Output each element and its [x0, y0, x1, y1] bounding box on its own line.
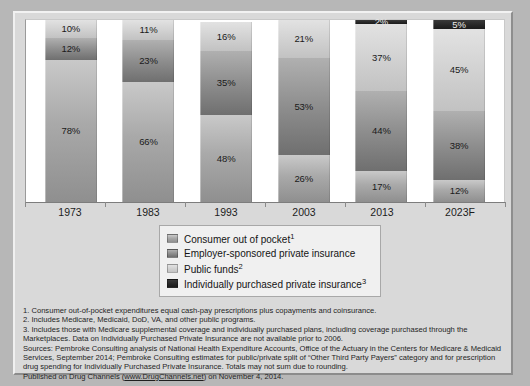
chart-panel: 10%12%78%11%23%66%16%35%48%21%53%26%2%37…	[13, 11, 513, 375]
segment-value-label: 12%	[61, 44, 80, 54]
bar-segment: 35%	[200, 51, 252, 115]
footnote-1: 1. Consumer out-of-pocket expenditures e…	[23, 306, 505, 315]
bar-1973: 10%12%78%	[45, 20, 97, 202]
sources-line-3: drug spending for Individually Purchased…	[23, 362, 505, 371]
bar-2003: 21%53%26%	[278, 20, 330, 202]
segment-value-label: 10%	[61, 24, 80, 34]
bar-segment: 5%	[433, 20, 485, 29]
bar-segment: 12%	[433, 180, 485, 202]
segment-value-label: 26%	[294, 174, 313, 184]
x-axis-labels: 197319831993200320132023F	[25, 206, 505, 222]
x-axis-label-1983: 1983	[122, 206, 174, 222]
legend-swatch-icon	[167, 264, 178, 273]
bar-1993: 16%35%48%	[200, 20, 252, 202]
legend-item-3[interactable]: Individually purchased private insurance…	[167, 276, 373, 291]
legend-swatch-icon	[167, 249, 178, 258]
segment-value-label: 37%	[372, 53, 391, 63]
legend-footnote-marker: 3	[362, 277, 366, 286]
segment-value-label: 17%	[372, 182, 391, 192]
segment-value-label: 48%	[217, 154, 236, 164]
x-axis-label-1993: 1993	[200, 206, 252, 222]
sources-line-2: Services, September 2014; Pembroke Consu…	[23, 353, 505, 362]
footnote-3-line-2: Marketplaces. Data on Individually Purch…	[23, 334, 505, 343]
legend-label: Public funds2	[184, 262, 243, 275]
legend-footnote-marker: 2	[238, 262, 242, 271]
plot-area: 10%12%78%11%23%66%16%35%48%21%53%26%2%37…	[25, 19, 505, 202]
bar-segment: 11%	[122, 20, 174, 40]
footnotes: 1. Consumer out-of-pocket expenditures e…	[23, 306, 505, 381]
bar-segment: 23%	[122, 40, 174, 82]
drug-channels-link[interactable]: www.DrugChannels.net	[124, 372, 203, 381]
footnote-3-line-1: 3. Includes those with Medicare suppleme…	[23, 325, 505, 334]
bar-segment: 21%	[278, 20, 330, 58]
segment-value-label: 23%	[139, 56, 158, 66]
legend-label: Consumer out of pocket1	[184, 232, 294, 245]
bar-segment: 45%	[433, 29, 485, 111]
chart-legend: Consumer out of pocket1Employer-sponsore…	[159, 225, 381, 297]
segment-value-label: 21%	[294, 34, 313, 44]
bar-segment: 10%	[45, 20, 97, 38]
x-axis-label-2023F: 2023F	[434, 206, 486, 222]
segment-value-label: 53%	[294, 102, 313, 112]
segment-value-label: 78%	[61, 126, 80, 136]
footnote-2: 2. Includes Medicare, Medicaid, DoD, VA,…	[23, 315, 505, 324]
segment-value-label: 35%	[217, 78, 236, 88]
segment-value-label: 44%	[372, 126, 391, 136]
legend-label: Employer-sponsored private insurance	[184, 248, 355, 259]
bar-segment: 48%	[200, 115, 252, 202]
bar-segment: 78%	[45, 60, 97, 202]
published-prefix: Published on Drug Channels (	[23, 372, 124, 381]
segment-value-label: 11%	[139, 25, 157, 35]
bar-segment: 66%	[122, 82, 174, 202]
segment-value-label: 66%	[139, 137, 158, 147]
segment-value-label: 45%	[450, 65, 469, 75]
stacked-bar-group: 10%12%78%11%23%66%16%35%48%21%53%26%2%37…	[26, 20, 504, 202]
segment-value-label: 5%	[452, 20, 466, 30]
legend-item-0[interactable]: Consumer out of pocket1	[167, 231, 373, 246]
legend-swatch-icon	[167, 279, 178, 288]
bar-2013: 2%37%44%17%	[355, 20, 407, 202]
legend-label: Individually purchased private insurance…	[184, 277, 366, 290]
bar-segment: 26%	[278, 155, 330, 202]
published-suffix: ) on November 4, 2014.	[204, 372, 284, 381]
bar-segment: 17%	[355, 171, 407, 202]
bar-segment: 37%	[355, 24, 407, 91]
bar-segment: 53%	[278, 58, 330, 154]
segment-value-label: 12%	[450, 186, 469, 196]
bar-segment: 16%	[200, 22, 252, 51]
legend-footnote-marker: 1	[290, 232, 294, 241]
bar-segment: 44%	[355, 91, 407, 171]
bar-segment: 12%	[45, 38, 97, 60]
screenshot-root: 10%12%78%11%23%66%16%35%48%21%53%26%2%37…	[0, 0, 530, 386]
legend-swatch-icon	[167, 234, 178, 243]
legend-item-2[interactable]: Public funds2	[167, 261, 373, 276]
legend-item-1[interactable]: Employer-sponsored private insurance	[167, 246, 373, 261]
x-axis-label-2013: 2013	[356, 206, 408, 222]
x-axis-tick	[505, 202, 506, 207]
x-axis-label-1973: 1973	[44, 206, 96, 222]
bar-segment: 38%	[433, 111, 485, 180]
published-line: Published on Drug Channels (www.DrugChan…	[23, 372, 505, 381]
sources-line-1: Sources: Pembroke Consulting analysis of…	[23, 344, 505, 353]
bar-1983: 11%23%66%	[122, 20, 174, 202]
segment-value-label: 38%	[450, 141, 469, 151]
x-axis-label-2003: 2003	[278, 206, 330, 222]
bar-2023F: 5%45%38%12%	[433, 20, 485, 202]
segment-value-label: 16%	[217, 32, 236, 42]
